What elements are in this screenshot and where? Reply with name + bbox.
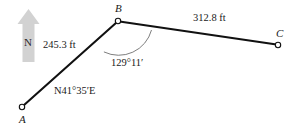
segment-bc xyxy=(120,22,277,45)
surveying-traverse-figure: N 245.3 ft 312.8 ft N41°35′E 129°11′ A B… xyxy=(0,0,299,129)
figure-canvas xyxy=(0,0,299,129)
vertex-marker-a xyxy=(19,104,24,109)
interior-angle-label: 129°11′ xyxy=(111,58,143,69)
vertex-marker-c xyxy=(275,42,280,47)
segment-ab-length-label: 245.3 ft xyxy=(43,40,76,51)
vertex-label-b: B xyxy=(115,3,122,14)
interior-angle-arc xyxy=(104,30,152,55)
bearing-label: N41°35′E xyxy=(54,86,96,97)
vertex-marker-b xyxy=(115,18,120,23)
vertex-label-c: C xyxy=(276,28,283,39)
vertex-label-a: A xyxy=(19,114,26,125)
compass-direction-label: N xyxy=(24,37,32,48)
segment-bc-length-label: 312.8 ft xyxy=(193,13,226,24)
